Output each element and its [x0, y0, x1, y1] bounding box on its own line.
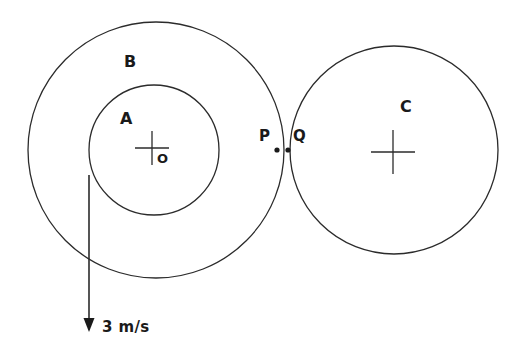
- label-center-o: O: [157, 152, 168, 165]
- point-q-dot: [285, 147, 290, 152]
- physics-circles-diagram: [0, 0, 512, 352]
- diagram-canvas: B A O P Q C 3 m/s: [0, 0, 512, 352]
- diagram-background: [0, 0, 512, 352]
- label-circle-a: A: [120, 111, 132, 127]
- label-point-q: Q: [293, 129, 306, 144]
- point-p-dot: [274, 147, 279, 152]
- label-point-p: P: [259, 129, 270, 144]
- label-circle-c: C: [400, 99, 412, 115]
- label-circle-b: B: [124, 54, 136, 70]
- label-velocity: 3 m/s: [102, 320, 150, 335]
